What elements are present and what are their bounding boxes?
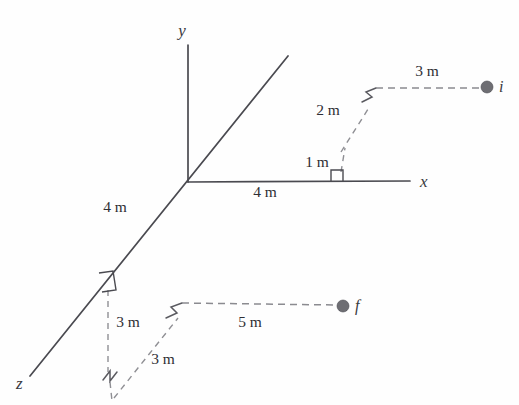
segment-3m-vertical-tail — [110, 382, 112, 401]
coordinate-diagram: y x z i — [0, 0, 519, 405]
dimension-label-horizontal-3m-to-i: 3 m — [415, 62, 439, 79]
path-to-final-point: f — [99, 271, 362, 401]
right-angle-marker-z-axis — [99, 271, 116, 292]
final-point-dot — [337, 300, 349, 312]
dimension-labels-group: 4 m 4 m 1 m 2 m 3 m 3 m 3 m 5 m — [103, 62, 439, 367]
dimension-label-diagonal-2m: 2 m — [316, 101, 340, 118]
dimension-label-vertical-1m: 1 m — [305, 153, 329, 170]
path-to-initial-point: i — [331, 78, 503, 181]
dimension-label-diagonal-4m: 4 m — [103, 198, 127, 215]
dimension-label-vertical-3m: 3 m — [116, 313, 140, 330]
axes-group — [30, 45, 410, 376]
axis-labels-group: y x z — [15, 21, 428, 393]
segment-5m-horizontal — [182, 303, 336, 305]
initial-point-label: i — [499, 78, 503, 95]
final-point-label: f — [355, 297, 362, 315]
break-marker-vertical — [103, 371, 117, 381]
dimension-label-horizontal-5m-to-f: 5 m — [238, 313, 262, 330]
x-axis-line — [188, 181, 410, 182]
dimension-label-x-axis-4m: 4 m — [253, 183, 277, 200]
segment-2m-diagonal — [341, 106, 370, 152]
break-marker-i — [362, 88, 376, 102]
dimension-label-diagonal-3m: 3 m — [151, 350, 175, 367]
z-axis-label: z — [15, 374, 23, 393]
break-marker-f — [166, 303, 182, 318]
x-axis-label: x — [419, 172, 428, 191]
y-axis-label: y — [176, 21, 186, 40]
diagram-canvas: y x z i — [0, 0, 519, 405]
initial-point-dot — [481, 81, 493, 93]
